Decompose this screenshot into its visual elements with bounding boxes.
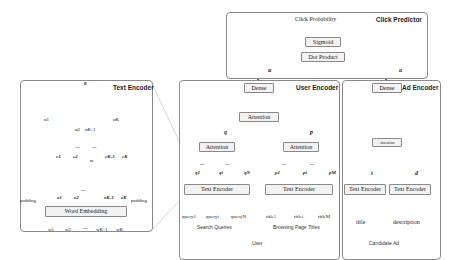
query-text-encoder-box: Text Encoder bbox=[184, 184, 250, 195]
q1-label: q1 bbox=[195, 170, 200, 175]
title-text-encoder-box: Text Encoder bbox=[265, 184, 333, 195]
t-vector-label: t bbox=[371, 170, 373, 176]
sigmoid-box: Sigmoid bbox=[305, 37, 341, 47]
click-predictor-title: Click Predictor bbox=[376, 16, 422, 23]
q-ellipsis: ... bbox=[200, 160, 205, 166]
word-embedding-box: Word Embedding bbox=[45, 206, 127, 217]
user-encoder-panel bbox=[179, 80, 340, 260]
query1-label: query1 bbox=[182, 214, 196, 219]
p-ellipsis: ... bbox=[282, 160, 287, 166]
p1-label: p1 bbox=[275, 170, 280, 175]
e2-label: e2 bbox=[74, 195, 79, 200]
wK1-label: wK-1 bbox=[96, 227, 107, 232]
w1-label: w1 bbox=[48, 227, 54, 232]
c1-label: c1 bbox=[56, 154, 61, 159]
alpha-1-label: α1 bbox=[44, 117, 49, 122]
d-vector-label: d bbox=[415, 170, 418, 176]
ad-description-label: description bbox=[393, 219, 420, 225]
cK1-label: cK-1 bbox=[105, 154, 115, 159]
user-dense-box: Dense bbox=[244, 83, 274, 93]
u-vector-label: u bbox=[268, 67, 271, 73]
query-attention-box: Attention bbox=[199, 142, 235, 152]
queryi-label: queryi bbox=[206, 214, 219, 219]
alpha-k1-label: αK-1 bbox=[85, 127, 95, 132]
eK-label: eK bbox=[121, 195, 127, 200]
padding-right-label: padding bbox=[131, 198, 147, 203]
w-context-label: w bbox=[90, 158, 93, 163]
browsing-page-titles-label: Browsing Page Titles bbox=[273, 224, 320, 230]
qi-label: qi bbox=[219, 170, 223, 175]
padding-left-label: padding bbox=[20, 198, 36, 203]
titleM-label: titleM bbox=[318, 214, 330, 219]
a-vector-label: a bbox=[399, 67, 402, 73]
titlei-label: titlei bbox=[294, 214, 303, 219]
pM-label: pM bbox=[329, 170, 336, 175]
alpha-2-label: α2 bbox=[75, 127, 80, 132]
eK1-label: eK-1 bbox=[104, 195, 114, 200]
ad-attention-box: Attention bbox=[372, 138, 402, 147]
queryN-label: queryN bbox=[231, 214, 246, 219]
user-attention-top-box: Attention bbox=[239, 112, 279, 122]
c2-label: c2 bbox=[73, 154, 78, 159]
text-encoder-title: Text Encoder bbox=[113, 84, 154, 91]
ad-desc-text-encoder-box: Text Encoder bbox=[389, 184, 431, 195]
pi-label: pi bbox=[303, 170, 307, 175]
ad-title-text-encoder-box: Text Encoder bbox=[344, 184, 386, 195]
q-vector-label: q bbox=[224, 129, 227, 135]
title1-label: title1 bbox=[266, 214, 276, 219]
wK-label: wK bbox=[116, 227, 123, 232]
cK-label: cK bbox=[122, 154, 128, 159]
e1-label: e1 bbox=[57, 195, 62, 200]
qN-label: qN bbox=[244, 170, 250, 175]
w2-label: w2 bbox=[65, 227, 71, 232]
te-ellipsis-3: ... bbox=[81, 186, 86, 192]
user-label: User bbox=[252, 240, 263, 246]
dot-product-box: Dot Product bbox=[301, 52, 345, 62]
e-output-label: e bbox=[84, 80, 87, 86]
ad-title-label: title bbox=[356, 219, 365, 225]
title-attention-box: Attention bbox=[283, 142, 319, 152]
alpha-k-label: αK bbox=[113, 117, 119, 122]
p-vector-label: p bbox=[310, 129, 313, 135]
candidate-ad-label: Candidate Ad bbox=[369, 240, 399, 246]
q-ellipsis-2: ... bbox=[225, 160, 230, 166]
ad-encoder-title: Ad Encoder bbox=[402, 84, 438, 91]
ad-encoder-panel bbox=[342, 80, 441, 260]
te-ellipsis-2: ... bbox=[92, 143, 97, 149]
user-encoder-title: User Encoder bbox=[296, 84, 338, 91]
p-ellipsis-2: ... bbox=[310, 160, 315, 166]
click-probability-label: Click Probability bbox=[295, 16, 336, 22]
te-ellipsis-1: ... bbox=[75, 143, 80, 149]
ad-dense-box: Dense bbox=[372, 83, 402, 93]
te-ellipsis-4: ... bbox=[83, 224, 88, 230]
search-queries-label: Search Queries bbox=[197, 224, 232, 230]
